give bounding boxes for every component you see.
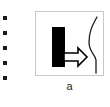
black-bar-icon <box>52 27 65 67</box>
bullet-list <box>0 0 16 107</box>
list-item-bullet <box>3 61 7 65</box>
figure-root: a <box>0 0 110 107</box>
list-item-bullet <box>3 16 7 20</box>
panel-illustration <box>36 12 103 75</box>
right-arrow-icon <box>64 48 87 66</box>
list-item-bullet <box>3 31 7 35</box>
figure-panel-a <box>35 11 104 76</box>
list-item-bullet <box>3 76 7 80</box>
s-curve-icon <box>89 17 97 73</box>
panel-caption: a <box>35 79 104 93</box>
list-item-bullet <box>3 46 7 50</box>
